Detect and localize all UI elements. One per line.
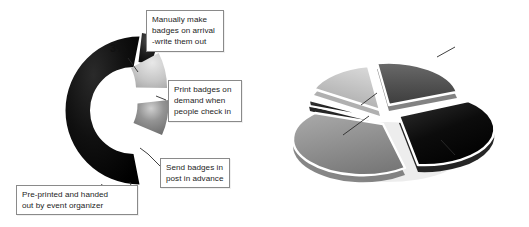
pie-slice-scan-printed (377, 63, 457, 111)
callout-line: post in advance (166, 174, 223, 183)
callout-line: Print badges on (174, 85, 231, 94)
access-control-pie-chart: 16,5% Scan badges, barcodes or QR codes … (265, 0, 529, 227)
callout-send-badges-in-post: Send badges in post in advance (160, 158, 230, 188)
callout-manually-make-badges: Manually make badges on arrival -write t… (146, 10, 224, 52)
donut-label-9: 9% (132, 128, 147, 139)
callout-line: people check in (174, 107, 231, 116)
callout-line: Send badges in (166, 163, 223, 172)
donut-label-80: 80% (22, 108, 44, 120)
callout-line: badges on arrival (152, 26, 215, 35)
callout-line: Pre-printed and handed (22, 190, 108, 199)
pie-svg (265, 0, 529, 227)
callout-line: demand when (174, 96, 225, 105)
callout-print-badges-on-demand: Print badges on demand when people check… (168, 80, 242, 122)
callout-line: Manually make (152, 15, 207, 24)
callout-pre-printed-handed-out: Pre-printed and handed out by event orga… (16, 185, 138, 215)
callout-line: -write them out (152, 37, 206, 46)
donut-label-8: 8% (128, 88, 143, 99)
donut-label-3: 3% (110, 42, 126, 54)
callout-line: out by event organizer (22, 201, 103, 210)
two-pie-chart-figure: 80% 3% 8% 9% Manually make badges on arr… (0, 0, 529, 227)
